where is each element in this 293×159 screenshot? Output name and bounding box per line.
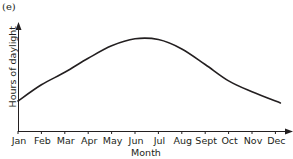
x-tick-label: Nov	[244, 135, 263, 146]
daylight-curve	[18, 38, 280, 103]
y-axis-label: Hours of daylight	[7, 28, 18, 108]
x-tick-label: Dec	[267, 135, 285, 146]
x-axis-arrow-icon	[285, 129, 293, 135]
x-tick-label: Jan	[12, 135, 27, 146]
x-axis-label: Month	[131, 147, 161, 158]
x-tick-label: Sept	[195, 135, 217, 146]
x-tick-label: Jun	[129, 135, 144, 146]
x-tick-label: Apr	[81, 135, 97, 146]
x-tick-label: May	[103, 135, 123, 146]
x-tick-label: Feb	[34, 135, 51, 146]
x-tick-label: Jul	[154, 135, 165, 146]
x-tick-label: Mar	[57, 135, 75, 146]
x-tick-label: Oct	[221, 135, 237, 146]
x-tick-label: Aug	[174, 135, 193, 146]
